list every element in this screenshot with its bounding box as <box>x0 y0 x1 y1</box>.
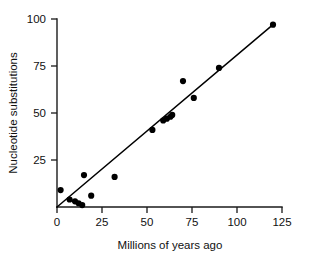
data-point <box>216 65 222 71</box>
scatter-plot: 100 75 50 25 0 25 50 75 100 125 Millions… <box>0 0 315 261</box>
x-tick-label-125: 125 <box>272 216 291 228</box>
data-point <box>81 172 87 178</box>
y-tick-label-25: 25 <box>33 154 46 166</box>
x-tick-label-0: 0 <box>54 216 60 228</box>
data-point <box>58 187 64 193</box>
chart-background <box>0 0 315 261</box>
x-tick-label-25: 25 <box>96 216 109 228</box>
y-tick-label-75: 75 <box>33 60 46 72</box>
data-point <box>169 112 175 118</box>
data-point <box>149 127 155 133</box>
x-tick-label-50: 50 <box>141 216 154 228</box>
data-point <box>112 174 118 180</box>
chart-figure: 100 75 50 25 0 25 50 75 100 125 Millions… <box>0 0 315 261</box>
y-tick-label-100: 100 <box>27 13 46 25</box>
x-axis-title: Millions of years ago <box>118 239 223 251</box>
y-tick-label-50: 50 <box>33 107 46 119</box>
data-point <box>79 202 85 208</box>
x-tick-label-100: 100 <box>227 216 246 228</box>
x-tick-label-75: 75 <box>186 216 199 228</box>
data-point <box>67 196 73 202</box>
data-point <box>88 193 94 199</box>
data-point <box>180 78 186 84</box>
y-axis-title: Nucleotide substitutions <box>7 52 19 174</box>
data-point <box>191 95 197 101</box>
data-point <box>270 22 276 28</box>
